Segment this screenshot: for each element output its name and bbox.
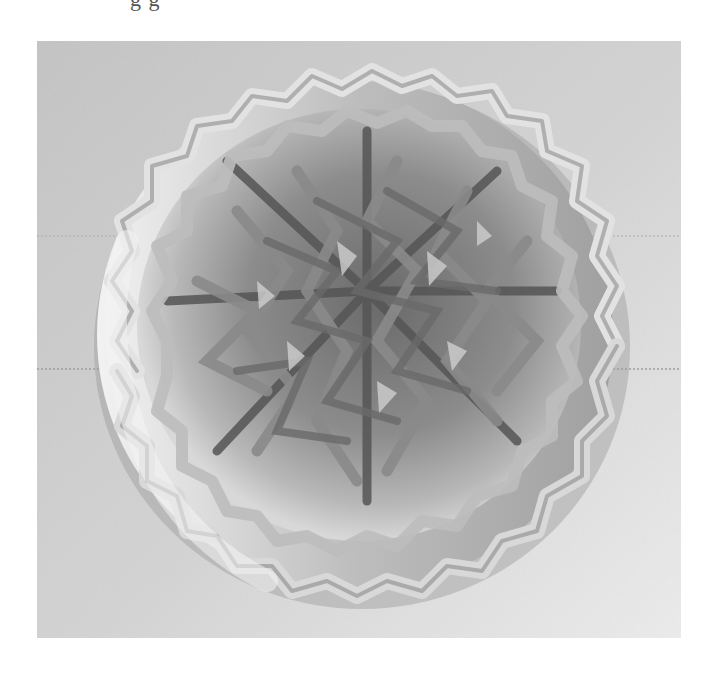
cropped-caption-text: g g	[130, 0, 161, 12]
basket-photograph	[37, 41, 681, 638]
basket-illustration	[37, 41, 681, 638]
